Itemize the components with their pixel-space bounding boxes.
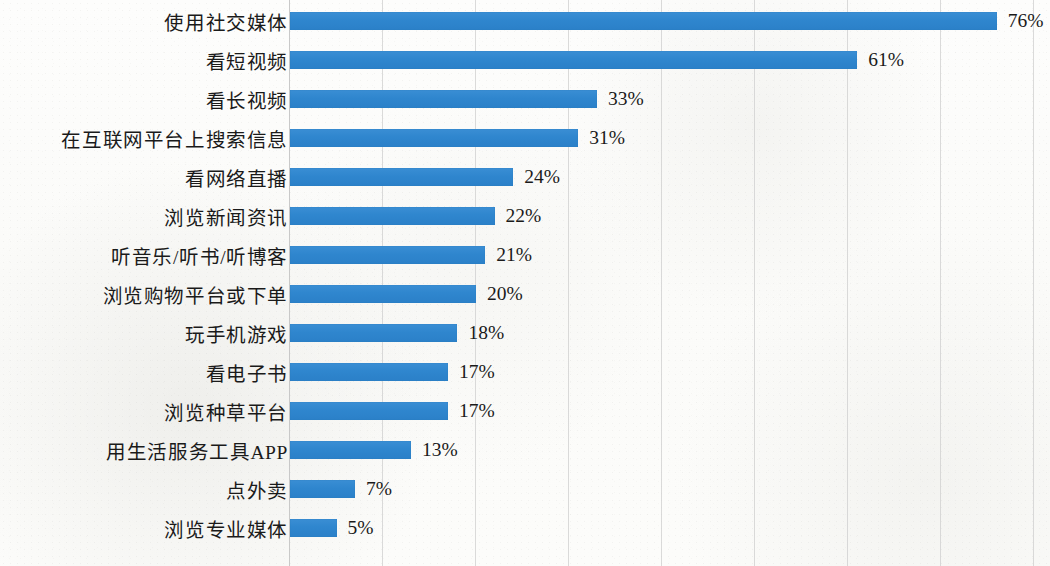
bar-row: 点外卖7% [0,469,1050,508]
bar-and-value: 5% [290,519,374,537]
bar-and-value: 33% [290,90,644,108]
bar [290,363,448,381]
category-label: 点外卖 [226,474,288,503]
bar-row: 用生活服务工具APP13% [0,430,1050,469]
category-label: 听音乐/听书/听博客 [111,240,288,269]
bar [290,519,337,537]
bar-and-value: 7% [290,480,392,498]
bar [290,480,355,498]
bar-row: 在互联网平台上搜索信息31% [0,118,1050,157]
category-label: 看长视频 [206,84,288,113]
bar-and-value: 21% [290,246,532,264]
bar [290,90,597,108]
value-label: 5% [348,517,374,539]
bar-row: 浏览种草平台17% [0,391,1050,430]
category-label: 用生活服务工具APP [106,435,288,464]
bar-row: 浏览专业媒体5% [0,508,1050,547]
value-label: 76% [1008,10,1044,32]
value-label: 61% [868,49,904,71]
bar [290,51,857,69]
bar-row: 玩手机游戏18% [0,313,1050,352]
bar-and-value: 24% [290,168,560,186]
bar-and-value: 18% [290,324,504,342]
value-label: 17% [459,361,495,383]
bar-row: 使用社交媒体76% [0,1,1050,40]
bar [290,441,411,459]
bar-and-value: 17% [290,402,495,420]
bar-and-value: 76% [290,12,1044,30]
category-label: 浏览种草平台 [164,396,288,425]
category-label: 看短视频 [206,45,288,74]
value-label: 18% [468,322,504,344]
category-label: 玩手机游戏 [185,318,288,347]
category-label: 浏览新闻资讯 [164,201,288,230]
bar-row: 看电子书17% [0,352,1050,391]
bar-row: 浏览新闻资讯22% [0,196,1050,235]
bar-row: 听音乐/听书/听博客21% [0,235,1050,274]
value-label: 7% [366,478,392,500]
value-label: 17% [459,400,495,422]
bar-row: 浏览购物平台或下单20% [0,274,1050,313]
value-label: 33% [608,88,644,110]
value-label: 22% [506,205,542,227]
bar [290,324,457,342]
bar [290,129,578,147]
value-label: 21% [496,244,532,266]
bar [290,285,476,303]
category-label: 看电子书 [206,357,288,386]
category-label: 浏览购物平台或下单 [103,279,288,308]
value-label: 20% [487,283,523,305]
bar [290,207,495,225]
bar-and-value: 13% [290,441,458,459]
category-label: 使用社交媒体 [164,6,288,35]
bar-and-value: 22% [290,207,541,225]
bar [290,246,485,264]
chart-container: 使用社交媒体76%看短视频61%看长视频33%在互联网平台上搜索信息31%看网络… [0,0,1050,566]
bar-row: 看短视频61% [0,40,1050,79]
bar [290,12,997,30]
bar-row: 看网络直播24% [0,157,1050,196]
bar-and-value: 61% [290,51,904,69]
bar-row: 看长视频33% [0,79,1050,118]
category-label: 看网络直播 [185,162,288,191]
bar-and-value: 17% [290,363,495,381]
bar-and-value: 20% [290,285,523,303]
plot-area: 使用社交媒体76%看短视频61%看长视频33%在互联网平台上搜索信息31%看网络… [0,0,1050,566]
category-label: 在互联网平台上搜索信息 [61,123,288,152]
value-label: 24% [524,166,560,188]
value-label: 31% [589,127,625,149]
value-label: 13% [422,439,458,461]
bar [290,402,448,420]
bar-and-value: 31% [290,129,625,147]
category-label: 浏览专业媒体 [164,513,288,542]
bar [290,168,513,186]
